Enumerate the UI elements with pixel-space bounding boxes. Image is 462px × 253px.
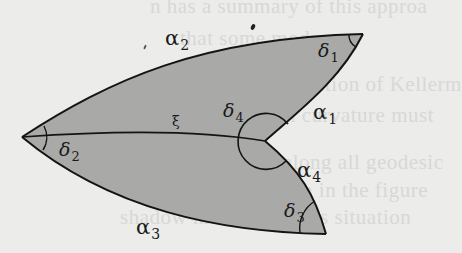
label-subscript: 1 (330, 50, 338, 65)
label-delta1: δ1 (318, 41, 339, 60)
ink-speck (250, 23, 256, 30)
label-main: α (313, 100, 327, 124)
label-subscript: 3 (296, 210, 304, 225)
label-subscript: 2 (180, 37, 189, 53)
label-alpha2: α2 (165, 28, 189, 49)
label-subscript: 3 (151, 226, 160, 242)
label-delta2: δ2 (59, 140, 80, 159)
label-subscript: 1 (328, 111, 337, 127)
label-alpha3: α3 (136, 217, 160, 238)
label-subscript: 2 (71, 149, 79, 164)
label-delta4: δ4 (223, 101, 244, 120)
label-main: ξ (172, 113, 180, 129)
label-main: α (136, 215, 150, 239)
label-xi: ξ (172, 113, 180, 129)
label-delta3: δ3 (284, 201, 305, 220)
label-main: δ (223, 99, 234, 121)
label-main: δ (59, 138, 70, 160)
label-alpha1: α1 (313, 102, 337, 123)
ink-speck (143, 44, 147, 49)
label-main: δ (318, 39, 329, 61)
label-alpha4: α4 (297, 160, 321, 181)
label-subscript: 4 (235, 110, 243, 125)
label-main: δ (284, 199, 295, 221)
label-main: α (165, 26, 179, 50)
label-subscript: 4 (312, 169, 321, 185)
label-main: α (297, 158, 311, 182)
